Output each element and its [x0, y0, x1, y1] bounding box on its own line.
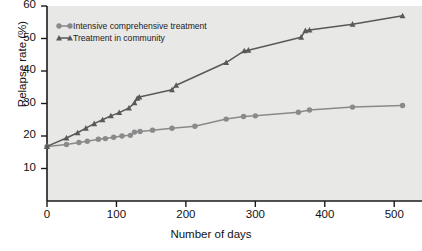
relapse-rate-chart: Relapse rate (%) Number of days 60504030…	[0, 0, 422, 251]
legend-label-intensive: Intensive comprehensive treatment	[73, 21, 207, 31]
x-axis-title: Number of days	[0, 228, 422, 240]
y-tick-60: 60	[10, 0, 36, 10]
y-tick-30: 30	[10, 96, 36, 108]
x-tick-300: 300	[235, 208, 275, 220]
y-tick-10: 10	[10, 161, 36, 173]
x-tick-400: 400	[305, 208, 345, 220]
x-tick-500: 500	[374, 208, 414, 220]
y-tick-40: 40	[10, 63, 36, 75]
y-tick-50: 50	[10, 31, 36, 43]
x-tick-0: 0	[27, 208, 67, 220]
x-tick-100: 100	[96, 208, 136, 220]
y-tick-20: 20	[10, 128, 36, 140]
x-tick-200: 200	[166, 208, 206, 220]
legend-label-community: Treatment in community	[73, 33, 165, 43]
